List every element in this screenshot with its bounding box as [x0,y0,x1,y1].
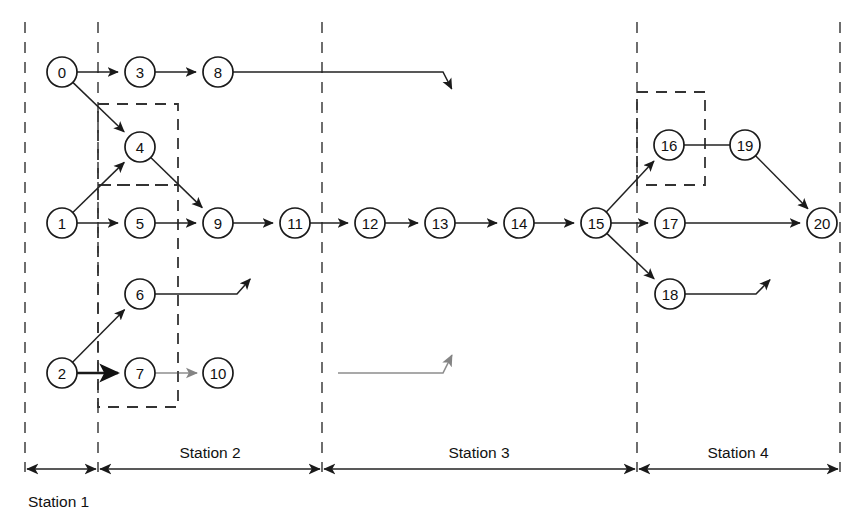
node-label-9: 9 [214,215,222,232]
station-dividers [25,22,840,472]
station-axis: Station 1Station 2Station 3Station 4 [27,444,838,510]
edge-15-to-18 [607,233,654,278]
node-label-3: 3 [136,64,144,81]
node-6[interactable]: 6 [125,279,155,309]
edge-19-to-20 [756,156,808,209]
node-5[interactable]: 5 [125,208,155,238]
node-17[interactable]: 17 [655,208,685,238]
node-label-15: 15 [588,215,605,232]
node-label-2: 2 [58,365,66,382]
diagram-canvas: 01234567891011121314151617181920 Station… [0,0,861,527]
node-4[interactable]: 4 [125,132,155,162]
node-19[interactable]: 19 [730,130,760,160]
node-label-1: 1 [58,215,66,232]
node-18[interactable]: 18 [655,279,685,309]
node-label-0: 0 [58,64,66,81]
station-2: Station 2 [100,444,320,469]
node-label-12: 12 [362,215,379,232]
edge-10-to-14 [338,355,452,373]
node-label-19: 19 [737,137,754,154]
edge-6-to-11 [155,279,250,294]
node-7[interactable]: 7 [125,358,155,388]
node-label-8: 8 [214,64,222,81]
node-label-10: 10 [210,365,227,382]
station-1-label: Station 1 [28,493,89,510]
node-10[interactable]: 10 [203,358,233,388]
precedence-graph-svg: 01234567891011121314151617181920 Station… [0,0,861,527]
node-14[interactable]: 14 [504,208,534,238]
station-4: Station 4 [639,444,838,469]
node-3[interactable]: 3 [125,57,155,87]
node-label-4: 4 [136,139,144,156]
station-1: Station 1 [27,469,96,510]
node-1[interactable]: 1 [47,208,77,238]
node-11[interactable]: 11 [280,208,310,238]
node-16[interactable]: 16 [654,130,684,160]
edge-4-to-9 [151,157,202,207]
node-label-13: 13 [432,215,449,232]
station-2-label: Station 2 [179,444,240,461]
node-8[interactable]: 8 [203,57,233,87]
station-4-label: Station 4 [707,444,769,461]
group-boxes [98,92,705,407]
node-label-11: 11 [287,215,303,232]
station-3-label: Station 3 [448,444,509,461]
node-2[interactable]: 2 [47,358,77,388]
node-label-14: 14 [511,215,528,232]
node-0[interactable]: 0 [47,57,77,87]
node-13[interactable]: 13 [425,208,455,238]
edge-2-to-6 [73,310,125,363]
node-label-6: 6 [136,286,144,303]
node-15[interactable]: 15 [581,208,611,238]
node-label-17: 17 [662,215,679,232]
station-3: Station 3 [324,444,635,469]
node-label-7: 7 [136,365,144,382]
node-label-20: 20 [814,215,831,232]
node-label-16: 16 [661,137,678,154]
edge-15-to-16 [606,161,654,212]
node-9[interactable]: 9 [203,208,233,238]
node-12[interactable]: 12 [355,208,385,238]
node-20[interactable]: 20 [807,208,837,238]
edge-8-to-14 [233,72,452,89]
node-label-5: 5 [136,215,144,232]
edge-18-to-20 [685,280,770,294]
node-label-18: 18 [662,286,679,303]
